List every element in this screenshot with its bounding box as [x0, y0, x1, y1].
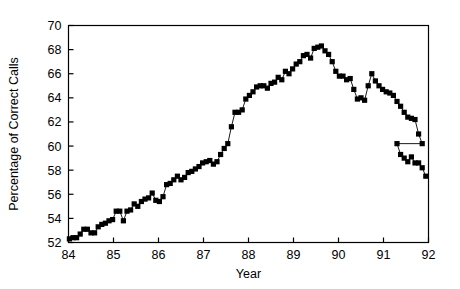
- data-point-marker: [409, 154, 414, 159]
- x-tick-label: 92: [422, 248, 436, 262]
- data-point-marker: [160, 194, 165, 199]
- data-point-marker: [150, 190, 155, 195]
- data-point-marker: [290, 66, 295, 71]
- data-point-marker: [128, 207, 133, 212]
- y-tick-label: 70: [48, 19, 62, 33]
- chart-figure: 52545658606264666870848586878889909192Ye…: [0, 0, 460, 289]
- x-tick-label: 84: [62, 248, 76, 262]
- data-point-marker: [222, 146, 227, 151]
- plot-frame: [69, 26, 429, 243]
- x-tick-label: 87: [197, 248, 211, 262]
- x-tick-label: 88: [242, 248, 256, 262]
- y-tick-label: 56: [48, 188, 62, 202]
- data-point-marker: [92, 230, 97, 235]
- data-point-marker: [391, 93, 396, 98]
- data-point-marker: [333, 69, 338, 74]
- data-point-marker: [348, 76, 353, 81]
- data-point-marker: [117, 209, 122, 214]
- data-point-marker: [394, 99, 399, 104]
- data-point-marker: [394, 141, 399, 146]
- data-point-marker: [225, 141, 230, 146]
- x-axis-title: Year: [236, 267, 261, 281]
- data-point-marker: [420, 165, 425, 170]
- data-point-marker: [326, 52, 331, 57]
- data-point-marker: [229, 124, 234, 129]
- data-point-marker: [351, 87, 356, 92]
- y-tick-label: 66: [48, 67, 62, 81]
- y-tick-label: 68: [48, 43, 62, 57]
- data-point-marker: [121, 218, 126, 223]
- data-point-marker: [366, 83, 371, 88]
- data-point-marker: [218, 152, 223, 157]
- data-point-marker: [250, 89, 255, 94]
- data-point-marker: [297, 59, 302, 64]
- data-point-marker: [135, 204, 140, 209]
- data-point-marker: [319, 43, 324, 48]
- x-tick-label: 86: [152, 248, 166, 262]
- data-point-marker: [398, 104, 403, 109]
- x-tick-label: 91: [377, 248, 391, 262]
- data-point-marker: [416, 131, 421, 136]
- x-tick-label: 90: [332, 248, 346, 262]
- data-point-marker: [240, 107, 245, 112]
- data-point-marker: [279, 77, 284, 82]
- x-tick-label: 85: [107, 248, 121, 262]
- data-point-marker: [420, 141, 425, 146]
- data-point-marker: [416, 160, 421, 165]
- data-point-marker: [272, 80, 277, 85]
- data-point-marker: [412, 117, 417, 122]
- data-point-marker: [373, 78, 378, 83]
- x-tick-label: 89: [287, 248, 301, 262]
- data-point-marker: [214, 159, 219, 164]
- line-chart: 52545658606264666870848586878889909192Ye…: [0, 0, 460, 289]
- data-point-marker: [369, 71, 374, 76]
- data-point-marker: [308, 55, 313, 60]
- data-point-marker: [265, 86, 270, 91]
- y-axis-title: Percentage of Correct Calls: [7, 57, 21, 211]
- y-tick-label: 54: [48, 212, 62, 226]
- data-point-marker: [423, 174, 428, 179]
- data-point-marker: [330, 59, 335, 64]
- y-tick-label: 64: [48, 91, 62, 105]
- data-point-marker: [146, 195, 151, 200]
- data-point-marker: [362, 98, 367, 103]
- y-tick-label: 62: [48, 115, 62, 129]
- y-tick-label: 60: [48, 140, 62, 154]
- data-point-marker: [182, 175, 187, 180]
- data-point-marker: [405, 159, 410, 164]
- data-point-marker: [110, 217, 115, 222]
- data-point-marker: [402, 110, 407, 115]
- data-point-marker: [78, 231, 83, 236]
- y-tick-label: 58: [48, 164, 62, 178]
- data-point-marker: [157, 199, 162, 204]
- y-tick-label: 52: [48, 236, 62, 250]
- data-point-marker: [286, 71, 291, 76]
